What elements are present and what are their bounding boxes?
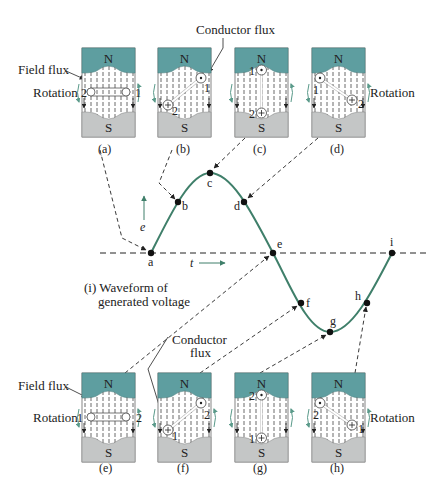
generator-panel-f: 2 1 (154, 373, 216, 462)
caption-a: (a) (98, 142, 111, 156)
conductor-number: 1 (313, 83, 319, 97)
conductor-number: 2 (313, 408, 319, 422)
rotation-label-d: Rotation (370, 85, 415, 100)
conductor-number: 1 (204, 81, 210, 95)
conductor-flux-label: Conductor flux (196, 22, 276, 37)
point-label-f: f (306, 296, 310, 310)
field-flux-label-bottom: Field flux (18, 378, 69, 393)
point-label-a: a (148, 255, 154, 269)
generator-panel-h: 2 1 (308, 373, 370, 462)
conductor-number: 2 (172, 104, 178, 118)
conductor-number: 2 (358, 97, 364, 111)
conductor-number: 1 (249, 64, 255, 78)
caption-f: (f) (177, 461, 189, 475)
point-label-h: h (355, 289, 361, 303)
caption-d: (d) (330, 142, 344, 156)
generator-panel-g: 2 1 (231, 373, 293, 462)
conductor-number: 1 (135, 86, 141, 100)
waveform-title-line1: (i) Waveform of (84, 280, 169, 295)
conductor-number: 1 (172, 429, 178, 443)
axis-label-t: t (190, 256, 194, 270)
point-label-c: c (207, 176, 212, 190)
point-label-i: i (390, 235, 394, 249)
point-label-d: d (234, 199, 240, 213)
waveform-title-line2: generated voltage (98, 294, 190, 309)
conductor-number: 2 (204, 408, 210, 422)
caption-g: (g) (253, 461, 267, 475)
conductor-number: 1 (249, 432, 255, 446)
generator-panel-e (78, 373, 140, 462)
conductor-number: 2 (81, 86, 87, 100)
axis-label-e: e (140, 220, 146, 234)
generator-panel-c: 1 2 (231, 48, 293, 137)
caption-e: (e) (99, 461, 112, 475)
caption-h: (h) (330, 461, 344, 475)
point-label-b: b (182, 199, 188, 213)
point-label-g: g (330, 314, 336, 328)
rotation-label-e: Rotation (33, 410, 78, 425)
point-label-e: e (277, 237, 282, 251)
conductor-number: 2 (136, 411, 142, 425)
caption-c: (c) (253, 142, 266, 156)
rotation-label-h: Rotation (370, 410, 415, 425)
caption-b: (b) (176, 142, 190, 156)
rotation-label-a: Rotation (33, 85, 78, 100)
conductor-number: 1 (358, 422, 364, 436)
generator-panel-b: 1 2 (154, 48, 212, 137)
conductor-number: 1 (77, 411, 83, 425)
conductor-flux-label-bottom-2: flux (190, 345, 211, 360)
field-flux-label: Field flux (18, 62, 69, 77)
conductor-number: 2 (249, 107, 255, 121)
generator-diagram: N S Conductor flux Field flux Rotation 2… (0, 0, 442, 478)
generator-panel-d: 1 2 (308, 48, 370, 137)
conductor-number: 2 (249, 389, 255, 403)
